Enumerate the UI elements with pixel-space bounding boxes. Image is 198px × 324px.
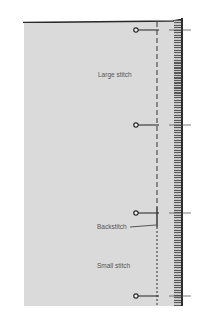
fabric-top-edge	[23, 19, 183, 23]
label-small-stitch: Small stitch	[97, 262, 130, 269]
stitch-line	[156, 22, 158, 306]
label-backstitch: Backstitch	[97, 223, 127, 230]
backstitch-leader-line	[130, 224, 158, 228]
pin-icon	[133, 122, 193, 128]
pin-icon	[133, 210, 193, 216]
pin-icon	[133, 293, 193, 299]
sewing-diagram: Large stitch Backstitch Small stitch	[0, 0, 198, 324]
pin-icon	[133, 27, 193, 33]
fabric-right-edge	[181, 18, 183, 306]
label-large-stitch: Large stitch	[98, 71, 132, 78]
